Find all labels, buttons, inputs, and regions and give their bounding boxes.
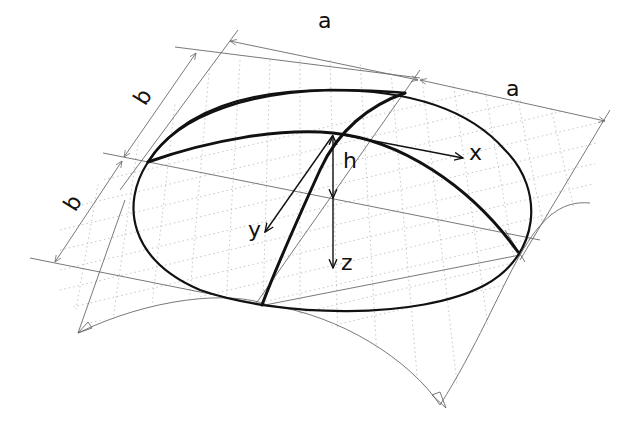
saddle-edge-front-right: [268, 305, 440, 405]
ref-line-top: [175, 47, 420, 78]
saddle-edge-left: [78, 200, 125, 333]
ref-line-right-diag: [520, 110, 610, 260]
label-a-left: a: [318, 10, 331, 32]
ref-line-right-bottom: [265, 255, 520, 305]
shell-diagram: [0, 0, 625, 429]
label-z-axis: z: [341, 252, 353, 274]
label-y-axis: y: [248, 219, 261, 241]
surface-arrow-right: [432, 392, 446, 408]
saddle-edge-front-left: [78, 298, 268, 333]
label-h: h: [343, 150, 357, 172]
ref-line-center-diag: [255, 70, 420, 305]
dim-b-lower: [55, 161, 122, 262]
label-a-right: a: [506, 78, 519, 100]
label-x-axis: x: [469, 142, 482, 164]
saddle-edge-right: [440, 255, 520, 405]
saddle-surface-hatching: [60, 60, 620, 410]
dim-a-left: [230, 41, 418, 80]
dim-b-upper: [124, 53, 196, 157]
